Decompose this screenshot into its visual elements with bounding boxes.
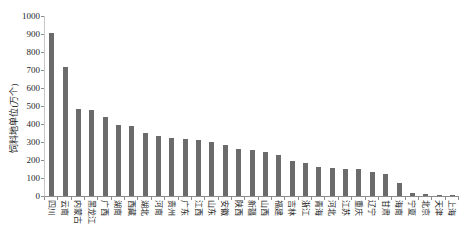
x-axis-tick-label: 广西 (100, 200, 109, 216)
bar-cell (285, 16, 298, 196)
x-axis-label-cell: 宁夏 (405, 200, 418, 242)
x-axis-label-cell: 甘肃 (378, 200, 391, 242)
y-tick-label: 900 (0, 29, 40, 40)
x-axis-label-cell: 天津 (431, 200, 444, 242)
bar (236, 149, 241, 197)
bar (156, 136, 161, 197)
x-axis-tick-label: 贵州 (166, 200, 175, 216)
x-axis-label-cell: 四川 (44, 200, 57, 242)
bar (343, 169, 348, 197)
bar (76, 109, 81, 196)
x-axis-tick-label: 海南 (394, 200, 403, 216)
bar (49, 33, 54, 196)
x-axis-tick-label: 陕西 (233, 200, 242, 216)
bar (116, 125, 121, 196)
bar (169, 138, 174, 196)
bar (276, 155, 281, 196)
bar (303, 163, 308, 196)
bar-cell (326, 16, 339, 196)
bar-cell (366, 16, 379, 196)
bar-chart: 饲料地单位(万个) 010020030040050060070080090010… (0, 0, 464, 243)
bar-cell (432, 16, 445, 196)
y-tick-label: 500 (0, 101, 40, 112)
bar (397, 183, 402, 196)
x-tick-mark (458, 197, 459, 200)
x-axis-label-cell: 青海 (311, 200, 324, 242)
bar-cell (299, 16, 312, 196)
x-axis-tick-label: 四川 (46, 200, 55, 216)
bar-cell (45, 16, 58, 196)
x-axis-tick-label: 江西 (193, 200, 202, 216)
x-axis-tick-label: 北京 (420, 200, 429, 216)
y-tick-label: 1000 (0, 11, 40, 22)
y-tick-label: 800 (0, 47, 40, 58)
bar (356, 169, 361, 196)
x-axis-label-cell: 内蒙古 (71, 200, 84, 242)
bar (209, 142, 214, 196)
bar-cell (446, 16, 459, 196)
x-axis-tick-label: 安徽 (220, 200, 229, 216)
x-axis-label-cell: 新疆 (244, 200, 257, 242)
bar-cell (379, 16, 392, 196)
bar-cell (205, 16, 218, 196)
bar-cell (152, 16, 165, 196)
y-tick-label: 600 (0, 83, 40, 94)
x-axis-tick-label: 广东 (180, 200, 189, 216)
bar (290, 161, 295, 196)
bar-cell (165, 16, 178, 196)
x-axis-label-cell: 湖南 (111, 200, 124, 242)
x-axis-labels: 四川云南内蒙古黑龙江广西湖南西藏湖北河南贵州广东江西山东安徽陕西新疆山西福建吉林… (44, 200, 458, 242)
bar (263, 152, 268, 196)
x-axis-tick-label: 内蒙古 (73, 200, 82, 224)
bar (143, 133, 148, 197)
x-axis-label-cell: 浙江 (298, 200, 311, 242)
bar-cell (272, 16, 285, 196)
x-axis-tick-label: 福建 (273, 200, 282, 216)
x-axis-tick-label: 山西 (260, 200, 269, 216)
bar-cell (232, 16, 245, 196)
bar-cell (112, 16, 125, 196)
bar-cell (406, 16, 419, 196)
x-axis-label-cell: 湖北 (138, 200, 151, 242)
bar-cell (72, 16, 85, 196)
bar-cell (259, 16, 272, 196)
bar (250, 150, 255, 196)
bar (370, 172, 375, 196)
x-axis-label-cell: 江苏 (338, 200, 351, 242)
bar (129, 126, 134, 196)
bar-cell (312, 16, 325, 196)
x-axis-label-cell: 辽宁 (365, 200, 378, 242)
x-axis-tick-label: 宁夏 (407, 200, 416, 216)
x-axis-label-cell: 安徽 (218, 200, 231, 242)
x-axis-label-cell: 山西 (258, 200, 271, 242)
x-axis-tick-label: 辽宁 (367, 200, 376, 216)
x-axis-label-cell: 贵州 (164, 200, 177, 242)
bar-cell (125, 16, 138, 196)
x-axis-tick-label: 浙江 (300, 200, 309, 216)
x-axis-tick-label: 西藏 (126, 200, 135, 216)
x-axis-tick-label: 山东 (206, 200, 215, 216)
x-axis-tick-label: 江苏 (340, 200, 349, 216)
x-axis-tick-label: 黑龙江 (86, 200, 95, 224)
bar-cell (419, 16, 432, 196)
bar (63, 67, 68, 196)
bar-cell (339, 16, 352, 196)
x-axis-tick-label: 云南 (60, 200, 69, 216)
x-axis-label-cell: 河北 (325, 200, 338, 242)
bar-cell (98, 16, 111, 196)
bar (316, 167, 321, 196)
x-axis-tick-label: 河南 (153, 200, 162, 216)
y-tick-label: 400 (0, 119, 40, 130)
bar-cell (392, 16, 405, 196)
x-axis-label-cell: 河南 (151, 200, 164, 242)
y-tick-label: 100 (0, 173, 40, 184)
x-axis-tick-label: 吉林 (287, 200, 296, 216)
x-axis-tick-label: 甘肃 (380, 200, 389, 216)
x-axis-tick-label: 上海 (447, 200, 456, 216)
x-axis-label-cell: 北京 (418, 200, 431, 242)
y-tick-label: 0 (0, 191, 40, 202)
bar-cell (352, 16, 365, 196)
x-axis-tick-label: 湖北 (140, 200, 149, 216)
bar (103, 117, 108, 196)
x-axis-label-cell: 海南 (391, 200, 404, 242)
